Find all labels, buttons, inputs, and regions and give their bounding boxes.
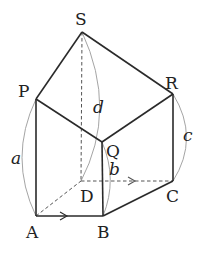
- edge-QB: [102, 142, 103, 216]
- label-a: a: [11, 148, 21, 168]
- edge-SR: [82, 32, 173, 94]
- label-A: A: [25, 222, 39, 242]
- label-R: R: [165, 73, 179, 93]
- edge-QR: [102, 94, 173, 142]
- arc-a: [22, 99, 36, 216]
- label-D: D: [80, 186, 94, 206]
- label-d: d: [93, 97, 104, 117]
- solid-diagram: S P R Q D C A B a b c d: [0, 0, 204, 258]
- edge-SP: [36, 32, 82, 99]
- edge-SD: [81, 32, 82, 181]
- label-B: B: [97, 222, 110, 242]
- edge-BC: [103, 181, 173, 216]
- label-Q: Q: [106, 141, 120, 161]
- label-C: C: [166, 186, 179, 206]
- edge-AD: [36, 181, 81, 216]
- label-S: S: [75, 9, 87, 29]
- label-P: P: [18, 81, 29, 101]
- label-c: c: [183, 125, 193, 145]
- label-b: b: [109, 159, 120, 179]
